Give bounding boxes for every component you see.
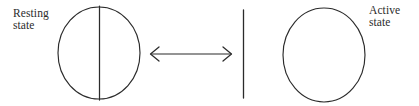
active-state-label: Active state [369, 5, 400, 29]
resting-state-label-line2: state [13, 20, 49, 32]
resting-state-label: Resting state [13, 8, 49, 32]
figure-drawing [0, 0, 419, 106]
state-transition-figure: Resting state Active state [0, 0, 419, 106]
active-state-label-line2: state [369, 17, 400, 29]
active-state-circle [283, 8, 365, 102]
bidirectional-arrow [151, 47, 232, 61]
